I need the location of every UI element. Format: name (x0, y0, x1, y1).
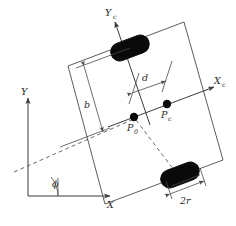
r-extension-right (200, 168, 206, 186)
reference-points: P 0 P c (126, 100, 172, 135)
d-dimension-label: d (142, 72, 148, 83)
heading-construction: ϕ (14, 118, 136, 196)
body-x-axis-sublabel: c (222, 81, 226, 88)
p0-to-wheel-dashed-line (136, 120, 174, 170)
point-p0-marker (130, 113, 138, 121)
b-dimension-label: b (84, 99, 90, 110)
wheels (108, 32, 202, 190)
point-p0-label: P (126, 122, 134, 133)
heading-dashed-line (14, 118, 136, 172)
global-y-axis-label: Y (21, 86, 29, 97)
body-y-axis-sublabel: c (113, 13, 117, 20)
point-pc-label: P (160, 109, 168, 120)
point-pc-sublabel: c (168, 115, 172, 122)
robot-kinematics-diagram: X Y ϕ X c Y c (0, 0, 236, 226)
wheel-right (158, 159, 202, 190)
diagram-canvas: X Y ϕ X c Y c (0, 0, 236, 226)
dimension-b: b (60, 48, 130, 147)
body-y-axis-label: Y (105, 7, 113, 18)
d-extension-right (162, 61, 172, 92)
r-dimension-label: 2r (179, 195, 192, 206)
body-x-axis-label: X (213, 75, 222, 86)
body-x-axis (108, 87, 214, 127)
point-pc-marker (163, 100, 171, 108)
point-p0-sublabel: 0 (134, 128, 138, 135)
